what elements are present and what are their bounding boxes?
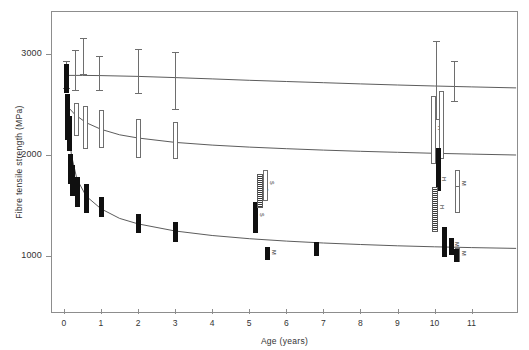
data-point-solid-rectangle (64, 64, 69, 92)
x-tick (323, 309, 324, 314)
data-point-open-rectangle (83, 106, 88, 149)
point-annotation: H (439, 205, 445, 208)
data-point-solid-rectangle (99, 197, 104, 217)
x-axis-title: Age (years) (185, 336, 385, 346)
x-tick-label: 1 (88, 318, 114, 328)
x-tick-label: 7 (310, 318, 336, 328)
data-point-solid-rectangle (173, 222, 178, 242)
data-point-open-rectangle (173, 122, 178, 159)
y-tick (46, 256, 52, 257)
data-point-capped-error-bar (99, 56, 100, 90)
data-point-capped-error-bar (138, 49, 139, 94)
point-annotation: S (259, 213, 265, 216)
x-tick-label: 2 (125, 318, 151, 328)
data-point-capped-error-bar (75, 50, 76, 91)
x-tick (286, 309, 287, 314)
data-point-solid-rectangle (314, 242, 319, 256)
point-annotation: M (454, 242, 460, 246)
data-point-solid-rectangle (454, 249, 459, 262)
x-tick (212, 309, 213, 314)
x-tick (101, 309, 102, 314)
figure-root: SSHMMSMHMH 01234567891011100020003000 Ag… (0, 0, 529, 350)
x-tick-label: 3 (162, 318, 188, 328)
x-tick-label: 4 (199, 318, 225, 328)
data-point-capped-error-bar (83, 38, 84, 75)
x-tick (398, 309, 399, 314)
x-tick (360, 309, 361, 314)
data-point-open-rectangle (99, 110, 104, 148)
y-tick (46, 54, 52, 55)
data-point-solid-rectangle (265, 247, 270, 260)
point-annotation: M (461, 181, 467, 185)
x-tick (175, 309, 176, 314)
data-point-solid-rectangle (67, 116, 72, 151)
point-annotation: S (269, 181, 275, 184)
x-tick (138, 309, 139, 314)
data-point-solid-rectangle (84, 184, 89, 213)
x-tick-label: 8 (347, 318, 373, 328)
x-tick-label: 0 (51, 318, 77, 328)
data-point-capped-error-bar (175, 52, 176, 109)
y-tick (46, 155, 52, 156)
data-point-open-rectangle (74, 103, 79, 136)
data-point-solid-rectangle (136, 214, 141, 233)
x-tick-label: 5 (236, 318, 262, 328)
y-axis-title: Fibre tensile strength (MPa) (14, 52, 24, 272)
plot-frame (51, 11, 518, 313)
point-annotation: M (461, 251, 467, 255)
data-point-solid-rectangle (442, 227, 447, 257)
data-point-open-rectangle (263, 170, 268, 201)
x-tick-label: 6 (273, 318, 299, 328)
point-annotation: H (441, 177, 447, 180)
data-point-open-rectangle (136, 119, 141, 158)
x-tick (472, 309, 473, 314)
x-tick-label: 11 (459, 318, 485, 328)
data-point-capped-error-bar (454, 61, 455, 102)
data-point-stippled-rectangle (257, 174, 263, 208)
x-tick (435, 309, 436, 314)
x-tick-label: 9 (385, 318, 411, 328)
point-annotation: M (271, 250, 277, 254)
data-point-open-rectangle (455, 186, 460, 213)
x-tick (64, 309, 65, 314)
x-tick-label: 10 (422, 318, 448, 328)
data-point-stippled-rectangle (432, 187, 438, 232)
x-tick (249, 309, 250, 314)
data-point-solid-rectangle (75, 177, 80, 207)
